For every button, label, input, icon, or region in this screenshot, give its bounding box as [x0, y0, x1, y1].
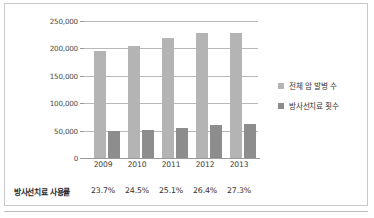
chart-figure: 250,000 200,000 150,000 100,000 50,000 0: [0, 0, 374, 218]
y-tick-label-100000: 100,000: [30, 99, 78, 108]
y-tick-label-0: 0: [30, 154, 78, 163]
legend-item-radio: 방사선치료 횟수: [278, 100, 370, 111]
usage-rate-2013: 27.3%: [219, 186, 259, 195]
x-tick-label-2013: 2013: [219, 160, 259, 169]
legend-swatch-icon-total: [278, 83, 284, 89]
x-axis-baseline: [84, 158, 260, 159]
y-tick-label-50000: 50,000: [30, 126, 78, 135]
footer-divider: [4, 211, 368, 212]
bar-total-2013: [230, 33, 242, 158]
usage-rate-row: 방사선치료 사용률 23.7% 24.5% 25.1% 26.4% 27.3%: [14, 186, 304, 200]
legend-swatch-icon-radio: [278, 103, 284, 109]
bar-radio-2009: [108, 131, 120, 158]
bar-radio-2011: [176, 128, 188, 158]
y-tick-label-250000: 250,000: [30, 17, 78, 26]
legend-label-radio: 방사선치료 횟수: [289, 100, 339, 111]
bar-radio-2012: [210, 125, 222, 158]
legend-label-total: 전체 암 발병 수: [289, 80, 336, 91]
bar-radio-2013: [244, 124, 256, 158]
bar-total-2009: [94, 51, 106, 158]
usage-rate-label: 방사선치료 사용률: [14, 186, 70, 197]
bar-total-2010: [128, 46, 140, 158]
bar-radio-2010: [142, 130, 154, 158]
y-tick-label-200000: 200,000: [30, 44, 78, 53]
chart-legend: 전체 암 발병 수 방사선치료 횟수: [278, 80, 370, 120]
bar-total-2011: [162, 38, 174, 158]
bar-total-2012: [196, 33, 208, 158]
y-tick-label-150000: 150,000: [30, 71, 78, 80]
bar-series-container: [84, 21, 258, 158]
legend-item-total: 전체 암 발병 수: [278, 80, 370, 91]
